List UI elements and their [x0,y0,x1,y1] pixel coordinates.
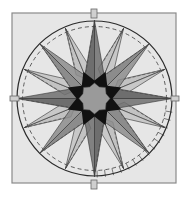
center-disc [79,83,110,114]
tab-left [10,96,19,101]
quilt-diagram [0,0,190,197]
tab-bottom [91,180,97,189]
tab-top [91,9,97,18]
compass-block-svg [0,0,190,197]
tab-right [171,96,179,101]
